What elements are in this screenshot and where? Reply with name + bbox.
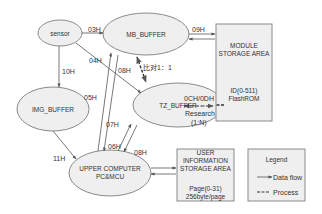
data-flow-diagram: sensor MB_BUFFER IMG_BUFFER TZ_BUFFER UP…	[0, 0, 322, 214]
edge-label-0ch-0dh: 0CH/0DH	[184, 95, 214, 102]
user-storage-detail2: 256byte/page	[177, 193, 234, 201]
edge-label-08h-mb: 08H	[118, 67, 131, 74]
module-storage-title2: STORAGE AREA	[216, 50, 272, 58]
edge-label-03h: 03H	[88, 26, 101, 33]
user-storage-detail: Page(0-31) 256byte/page	[177, 185, 234, 201]
edge-label-07h: 07H	[106, 121, 119, 128]
module-storage-detail: ID(0-511) FlashROM	[216, 87, 272, 103]
module-storage-detail2: FlashROM	[216, 95, 272, 103]
edge-tz-upper-08	[124, 125, 137, 152]
user-storage-title3: STORAGE AREA	[177, 165, 234, 173]
upper-computer-line1: UPPER COMPUTER	[79, 165, 140, 173]
module-storage-title1: MODULE	[216, 42, 272, 50]
edge-label-05h: 05H	[84, 94, 97, 101]
edge-mb-upper-08	[104, 55, 118, 151]
sensor-label: sensor	[50, 30, 70, 38]
edge-label-compare: 比对1：1	[143, 64, 172, 71]
legend-data-flow-label: Data flow	[273, 174, 302, 181]
module-storage-title: MODULE STORAGE AREA	[216, 42, 272, 58]
edge-label-06h: 06H	[108, 143, 121, 150]
module-storage-detail1: ID(0-511)	[216, 87, 272, 95]
legend-process-label: Process	[273, 189, 298, 196]
user-storage-title1: USER	[177, 149, 234, 157]
edge-label-09h: 09H	[192, 26, 205, 33]
edge-label-research: Research	[185, 110, 215, 117]
legend-title: Legend	[248, 156, 305, 164]
mb-buffer-label: MB_BUFFER	[126, 31, 165, 39]
img-buffer-label: IMG_BUFFER	[32, 106, 74, 114]
edge-label-04h: 04H	[89, 57, 102, 64]
user-storage-detail1: Page(0-31)	[177, 185, 234, 193]
edge-label-ratio: (1:N)	[191, 119, 207, 126]
edge-label-11h: 11H	[53, 155, 65, 162]
edge-label-10h: 10H	[62, 68, 75, 75]
upper-computer-label: UPPER COMPUTER PC&MCU	[79, 165, 140, 181]
user-storage-title2: INFORMATION	[177, 157, 234, 165]
edge-label-08h-tz: 08H	[134, 149, 147, 156]
edge-upper-mb-05	[98, 53, 111, 151]
tz-buffer-label: TZ_BUFFER	[159, 102, 197, 110]
user-storage-title: USER INFORMATION STORAGE AREA	[177, 149, 234, 173]
module-storage-box	[216, 24, 272, 121]
upper-computer-line2: PC&MCU	[79, 173, 140, 181]
